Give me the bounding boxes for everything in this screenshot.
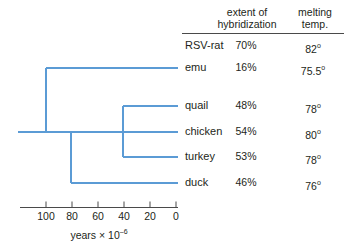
melting-value-chicken: 80 [305, 129, 317, 141]
melting-value-quail: 78 [305, 103, 317, 115]
row-melting-temp-duck: 76o [282, 176, 344, 193]
degree-icon: o [317, 179, 321, 186]
axis-title: years × 10–6 [20, 226, 178, 241]
row-hybridization-chicken: 54% [215, 125, 277, 138]
row-melting-temp-turkey: 78o [282, 150, 344, 167]
row-label-duck: duck [185, 176, 208, 189]
row-label-quail: quail [185, 99, 208, 112]
row-hybridization-emu: 16% [215, 61, 277, 74]
row-hybridization-turkey: 53% [215, 150, 277, 163]
row-melting-temp-emu: 75.5o [282, 61, 344, 78]
axis-tick-label-0: 0 [161, 210, 191, 222]
degree-icon: o [321, 64, 325, 71]
phylogenetic-tree-figure: extent of hybridization melting temp. [0, 0, 348, 249]
melting-value-turkey: 78 [305, 154, 317, 166]
axis-title-text: years × 10 [70, 229, 119, 241]
melting-value-duck: 76 [305, 180, 317, 192]
row-hybridization-duck: 46% [215, 176, 277, 189]
melting-value-rsv-rat: 82 [305, 43, 317, 55]
axis-title-exponent: –6 [120, 228, 128, 235]
degree-icon: o [317, 128, 321, 135]
row-label-emu: emu [185, 61, 206, 74]
row-melting-temp-quail: 78o [282, 99, 344, 116]
row-label-turkey: turkey [185, 150, 215, 163]
degree-icon: o [317, 153, 321, 160]
row-melting-temp-rsv-rat: 82o [282, 39, 344, 56]
melting-value-emu: 75.5 [301, 65, 321, 77]
row-hybridization-rsv-rat: 70% [215, 39, 277, 52]
row-melting-temp-chicken: 80o [282, 125, 344, 142]
degree-icon: o [317, 42, 321, 49]
degree-icon: o [317, 102, 321, 109]
row-hybridization-quail: 48% [215, 99, 277, 112]
